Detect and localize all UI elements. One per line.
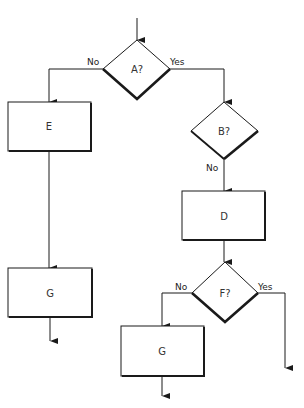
edge-a-yes-label: Yes [169, 57, 185, 67]
edge-a-no-label: No [87, 57, 100, 67]
flowchart: A? No Yes E B? No D F? No Yes [0, 0, 304, 408]
edge-f-no-label: No [175, 282, 188, 292]
edge-f-yes [258, 293, 285, 368]
process-d: D [182, 191, 265, 240]
edge-a-no [49, 69, 103, 102]
edge-b-no-label: No [206, 163, 219, 173]
process-g2-label: G [158, 346, 166, 357]
process-g1-label: G [46, 288, 54, 299]
process-g2: G [121, 326, 204, 376]
edge-f-no [162, 293, 192, 326]
process-g1: G [8, 268, 92, 317]
process-e: E [8, 102, 91, 151]
decision-a-label: A? [131, 64, 143, 75]
decision-a: A? [103, 40, 170, 99]
process-e-label: E [46, 121, 52, 132]
decision-b: B? [191, 102, 258, 159]
decision-f: F? [192, 262, 258, 322]
decision-f-label: F? [219, 288, 230, 299]
process-d-label: D [220, 211, 228, 222]
decision-b-label: B? [218, 126, 230, 137]
edge-a-yes [170, 69, 224, 102]
edge-f-yes-label: Yes [257, 282, 273, 292]
